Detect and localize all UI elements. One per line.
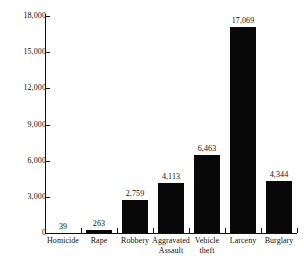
x-axis-tick-mark	[153, 228, 154, 233]
y-axis-tick-label: 15,000	[0, 48, 46, 56]
x-axis-line	[45, 233, 297, 234]
x-axis-category-label-line: Vehicle	[195, 236, 219, 245]
y-axis-tick-label: 12,000	[0, 84, 46, 92]
bar	[230, 27, 256, 233]
y-axis-tick-label: 18,000	[0, 12, 46, 20]
x-axis-category-label-line: Burglary	[265, 236, 294, 245]
x-axis-category-label-line: Larceny	[230, 236, 257, 245]
x-axis-category-label: Burglary	[255, 236, 303, 246]
x-axis-tick-mark	[189, 228, 190, 233]
x-axis-category-label-line: Rape	[91, 236, 108, 245]
bar-value-label: 4,344	[253, 170, 304, 179]
y-axis-tick-label: 6,000	[0, 157, 46, 165]
bar	[194, 155, 220, 233]
bar-value-label: 4,113	[145, 172, 197, 181]
x-axis-tick-mark	[225, 228, 226, 233]
x-axis-tick-mark	[297, 228, 298, 233]
x-axis-tick-mark	[117, 228, 118, 233]
bar-chart: 03,0006,0009,00012,00015,00018,000 39263…	[0, 0, 304, 267]
bar-value-label: 6,463	[181, 144, 233, 153]
x-axis-category-label-line: theft	[183, 246, 231, 256]
x-axis-tick-mark	[261, 228, 262, 233]
x-axis-category-label-line: Robbery	[121, 236, 149, 245]
bar	[122, 200, 148, 233]
y-axis-tick-label: 9,000	[0, 121, 46, 129]
bar-value-label: 17,069	[217, 16, 269, 25]
bar	[50, 233, 76, 234]
bar-value-label: 263	[73, 219, 125, 228]
y-axis-tick-label: 3,000	[0, 193, 46, 201]
bar-value-label: 2,759	[109, 189, 161, 198]
bar	[86, 230, 112, 233]
bar	[158, 183, 184, 233]
bar	[266, 181, 292, 233]
